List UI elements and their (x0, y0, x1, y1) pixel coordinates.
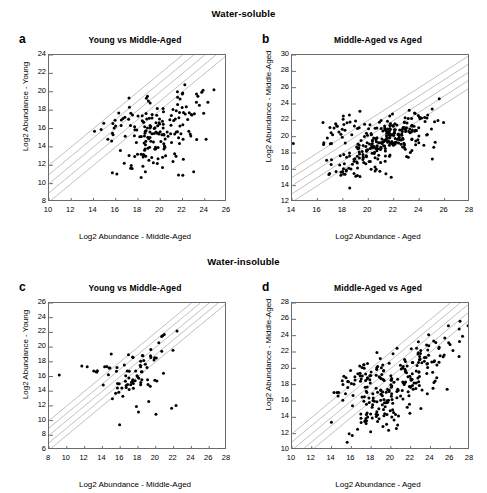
data-point (356, 166, 359, 169)
data-point (401, 389, 404, 392)
data-point (384, 139, 387, 142)
data-point (371, 152, 374, 155)
data-point (326, 137, 329, 140)
data-point (368, 378, 371, 381)
data-point (431, 107, 434, 110)
data-points-b (292, 97, 445, 189)
data-point (156, 107, 159, 110)
data-point (172, 160, 175, 163)
y-tick-label: 22 (28, 69, 46, 77)
data-point (431, 371, 434, 374)
data-point (401, 397, 404, 400)
data-point (442, 121, 445, 124)
data-point (369, 412, 372, 415)
data-point (368, 401, 371, 404)
panel-c: c Young vs Middle-Aged Log2 Abundance - … (0, 274, 243, 493)
data-point (102, 122, 105, 125)
x-tick-label: 26 (216, 206, 236, 214)
data-point (336, 391, 339, 394)
fold-line-label: -4x (302, 447, 310, 449)
data-point (178, 111, 181, 114)
data-point (400, 134, 403, 137)
data-point (333, 391, 336, 394)
data-point (365, 422, 368, 425)
data-point (458, 327, 461, 330)
data-point (426, 366, 429, 369)
data-point (370, 371, 373, 374)
data-point (344, 141, 347, 144)
data-point (433, 120, 436, 123)
data-point (392, 381, 395, 384)
data-point (443, 337, 446, 340)
data-point (118, 423, 121, 426)
data-point (349, 120, 352, 123)
data-point (414, 387, 417, 390)
data-point (425, 117, 428, 120)
x-axis-ticks-b: 1416182022242628 (291, 206, 469, 218)
data-point (124, 374, 127, 377)
data-point (426, 114, 429, 117)
data-point (130, 381, 133, 384)
data-point (396, 388, 399, 391)
data-point (148, 117, 151, 120)
data-point (346, 441, 349, 444)
x-tick-label: 16 (105, 206, 125, 214)
data-point (170, 407, 173, 410)
data-point (403, 143, 406, 146)
data-point (387, 130, 390, 133)
data-point (390, 176, 393, 179)
data-point (438, 97, 441, 100)
x-tick-label: 24 (408, 206, 428, 214)
data-point (343, 162, 346, 165)
data-point (350, 133, 353, 136)
data-point (145, 112, 148, 115)
data-point (413, 381, 416, 384)
data-point (407, 394, 410, 397)
data-point (137, 115, 140, 118)
data-point (185, 105, 188, 108)
y-tick-label: 22 (28, 328, 46, 336)
data-point (390, 395, 393, 398)
data-point (167, 135, 170, 138)
data-point (119, 149, 122, 152)
data-point (181, 93, 184, 96)
data-point (410, 117, 413, 120)
data-point (143, 134, 146, 137)
data-point (396, 378, 399, 381)
data-point (120, 124, 123, 127)
data-point (92, 369, 95, 372)
y-tick-label: 18 (271, 148, 289, 156)
data-point (406, 364, 409, 367)
data-point (419, 358, 422, 361)
data-point (153, 359, 156, 362)
y-tick-label: 26 (271, 83, 289, 91)
y-tick-label: 30 (271, 50, 289, 58)
scatter-canvas-c: +4x+2x1x-2x-4x (49, 303, 226, 449)
data-point (427, 354, 430, 357)
data-point (364, 372, 367, 375)
data-point (115, 366, 118, 369)
x-tick-label: 22 (172, 206, 192, 214)
y-tick-label: 18 (271, 380, 289, 388)
data-point (142, 359, 145, 362)
y-tick-label: 24 (28, 50, 46, 58)
data-point (394, 413, 397, 416)
x-tick-label: 28 (459, 454, 479, 462)
data-point (153, 148, 156, 151)
data-point (135, 141, 138, 144)
data-point (146, 366, 149, 369)
data-point (123, 363, 126, 366)
data-point (169, 132, 172, 135)
data-point (162, 123, 165, 126)
data-point (127, 376, 130, 379)
data-points-d (330, 320, 469, 444)
data-point (149, 140, 152, 143)
y-tick-label: 24 (271, 99, 289, 107)
x-tick-label: 28 (216, 454, 236, 462)
data-point (341, 399, 344, 402)
data-point (183, 83, 186, 86)
data-point (396, 424, 399, 427)
x-tick-label: 16 (340, 454, 360, 462)
data-point (144, 363, 147, 366)
data-point (418, 116, 421, 119)
